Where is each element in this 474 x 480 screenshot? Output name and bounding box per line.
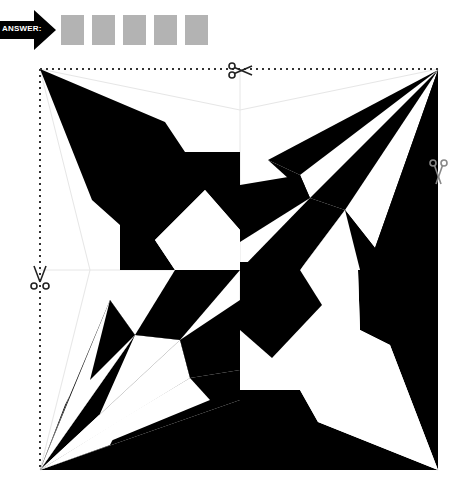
br-top-black [240,262,305,270]
pinwheel-puzzle [0,0,474,480]
